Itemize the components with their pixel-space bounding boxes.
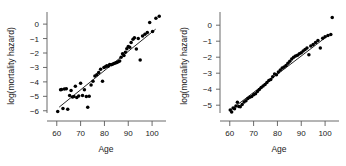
data-point bbox=[87, 95, 91, 99]
mortality-hazard-figure: 0−1−2−3−4−5−6 60708090100 Age log(mortal… bbox=[0, 0, 346, 166]
x-tick-label: 60 bbox=[52, 129, 61, 138]
y-tick-label: −1 bbox=[203, 37, 213, 46]
y-axis-left: 0−1−2−3−4−5−6 bbox=[30, 12, 47, 116]
data-point bbox=[307, 53, 311, 57]
data-point bbox=[86, 105, 90, 109]
data-point bbox=[79, 82, 83, 86]
data-point bbox=[74, 84, 78, 88]
chart-panel-right: 0−1−2−3−4−5 60708090100 Age log(mortalit… bbox=[173, 0, 346, 166]
y-axis-ticks-left: 0−1−2−3−4−5−6 bbox=[30, 20, 47, 116]
data-point bbox=[146, 31, 150, 35]
chart-panel-left: 0−1−2−3−4−5−6 60708090100 Age log(mortal… bbox=[0, 0, 173, 166]
data-point bbox=[65, 87, 69, 91]
data-point bbox=[81, 94, 85, 98]
fit-line bbox=[59, 29, 156, 107]
y-tick-label: −5 bbox=[203, 101, 213, 110]
y-axis-ticks-right: 0−1−2−3−4−5 bbox=[203, 21, 220, 110]
scatter-plot-left: 0−1−2−3−4−5−6 60708090100 Age log(mortal… bbox=[0, 0, 173, 166]
x-tick-label: 70 bbox=[249, 129, 258, 138]
regression-line-right bbox=[231, 35, 329, 110]
data-point bbox=[154, 17, 158, 21]
data-point bbox=[135, 47, 139, 51]
data-point bbox=[133, 36, 137, 40]
data-point bbox=[61, 107, 65, 111]
x-tick-label: 80 bbox=[273, 129, 282, 138]
y-axis-title-right: log(mortality hazard) bbox=[179, 27, 189, 105]
x-tick-label: 100 bbox=[145, 129, 159, 138]
data-point bbox=[329, 33, 333, 37]
data-point bbox=[77, 94, 81, 98]
x-tick-label: 90 bbox=[124, 129, 133, 138]
x-axis-title-left: Age bbox=[98, 144, 113, 154]
scatter-plot-right: 0−1−2−3−4−5 60708090100 Age log(mortalit… bbox=[173, 0, 346, 166]
data-point bbox=[305, 46, 309, 50]
data-point bbox=[148, 21, 152, 25]
regression-line-left bbox=[59, 29, 156, 107]
data-point bbox=[319, 46, 323, 50]
x-tick-label: 90 bbox=[297, 129, 306, 138]
data-point bbox=[138, 58, 142, 62]
y-tick-label: −4 bbox=[203, 85, 213, 94]
y-tick-label: −5 bbox=[30, 92, 40, 101]
data-point bbox=[157, 14, 161, 18]
data-point bbox=[137, 37, 141, 41]
x-axis-left: 60708090100 bbox=[47, 121, 166, 138]
x-tick-label: 60 bbox=[225, 129, 234, 138]
y-tick-label: −4 bbox=[30, 78, 40, 87]
data-point bbox=[99, 67, 103, 71]
y-tick-label: 0 bbox=[208, 21, 213, 30]
y-tick-label: −6 bbox=[30, 107, 40, 116]
data-point bbox=[330, 16, 334, 20]
y-tick-label: −1 bbox=[30, 35, 40, 44]
x-tick-label: 80 bbox=[100, 129, 109, 138]
x-axis-title-right: Age bbox=[271, 144, 286, 154]
x-tick-label: 70 bbox=[76, 129, 85, 138]
data-point bbox=[129, 41, 133, 45]
fit-line bbox=[231, 35, 329, 110]
data-point bbox=[69, 89, 73, 93]
y-axis-right: 0−1−2−3−4−5 bbox=[203, 12, 220, 113]
data-point bbox=[56, 110, 60, 114]
data-point bbox=[83, 88, 87, 92]
y-axis-title-left: log(mortality hazard) bbox=[6, 27, 16, 105]
x-axis-ticks-left: 60708090100 bbox=[52, 121, 159, 138]
y-tick-label: −3 bbox=[30, 63, 40, 72]
y-tick-label: −3 bbox=[203, 69, 213, 78]
data-point bbox=[66, 108, 70, 112]
data-point bbox=[128, 45, 132, 49]
x-axis-ticks-right: 60708090100 bbox=[225, 121, 332, 138]
data-points-left bbox=[56, 14, 161, 113]
data-point bbox=[101, 79, 105, 83]
x-axis-right: 60708090100 bbox=[220, 121, 339, 138]
data-point bbox=[316, 39, 320, 43]
data-point bbox=[230, 110, 234, 114]
y-tick-label: −2 bbox=[203, 53, 213, 62]
data-point bbox=[89, 83, 93, 87]
y-tick-label: 0 bbox=[35, 20, 40, 29]
x-tick-label: 100 bbox=[318, 129, 332, 138]
y-tick-label: −2 bbox=[30, 49, 40, 58]
